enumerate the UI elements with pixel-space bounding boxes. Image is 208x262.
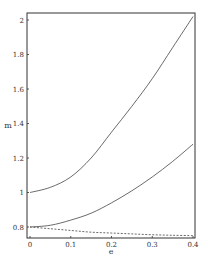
x-axis-label: e <box>109 247 114 256</box>
y-tick-label: 2 <box>20 17 24 25</box>
x-tick-label: 0.3 <box>147 241 158 249</box>
y-tick-label: 1.4 <box>13 120 25 128</box>
plot-frame <box>27 13 195 238</box>
y-tick-label: 1.8 <box>13 51 24 59</box>
x-tick-label: 0.1 <box>65 241 76 249</box>
x-tick-label: 0.4 <box>187 241 199 249</box>
y-tick-label: 1.2 <box>13 155 24 163</box>
y-tick-label: 1 <box>20 189 24 197</box>
curve-upper-solid <box>30 17 193 193</box>
y-tick-label: 0.8 <box>13 224 24 232</box>
plot-area <box>27 13 195 238</box>
curve-lower-dashed <box>30 227 193 236</box>
curves <box>30 17 193 236</box>
y-tick-label: 1.6 <box>13 86 25 94</box>
y-axis-label: m <box>4 121 12 130</box>
x-tick-label: 0 <box>28 241 32 249</box>
line-chart: 00.10.20.30.4 0.811.21.41.61.82 e m <box>0 0 208 262</box>
